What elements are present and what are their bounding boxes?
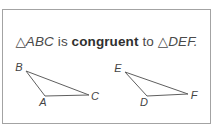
triangle-abc-name: △ABC	[15, 34, 54, 49]
vertex-label-a: A	[39, 97, 46, 108]
word-congruent: congruent	[72, 34, 139, 49]
vertex-label-b: B	[15, 62, 22, 73]
triangle-def-name: △DEF.	[158, 34, 198, 49]
vertex-label-f: F	[191, 90, 198, 101]
word-to: to	[142, 34, 153, 49]
vertex-label-d: D	[140, 97, 148, 108]
vertex-label-c: C	[91, 91, 99, 102]
word-is: is	[58, 34, 68, 49]
vertex-label-e: E	[114, 63, 121, 74]
congruence-statement-card: △ABC is congruent to △DEF.	[2, 9, 211, 119]
congruence-statement: △ABC is congruent to △DEF.	[3, 34, 210, 49]
